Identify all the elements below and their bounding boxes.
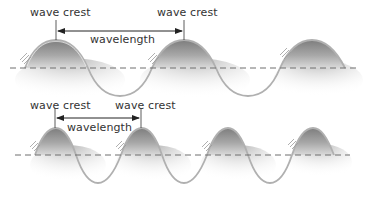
long-wavelength-wave (10, 20, 363, 102)
wave-crest-label: wave crest (115, 100, 176, 111)
wave-crest-label: wave crest (30, 7, 91, 18)
short-wavelength-wave (15, 108, 352, 185)
crest-fill (152, 40, 216, 68)
wave-crest-label: wave crest (30, 100, 91, 111)
wavelength-label: wavelength (67, 122, 132, 133)
wavelength-label: wavelength (90, 34, 155, 45)
wave-crest-label: wave crest (157, 7, 218, 18)
